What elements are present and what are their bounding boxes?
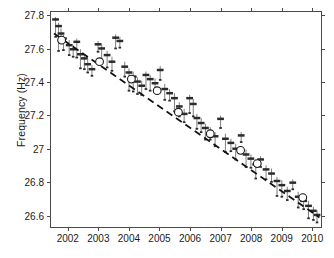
x-axis-tick-label: 2005 [148,233,170,244]
trend-line [54,34,319,218]
data-point-marker [190,103,197,105]
annual-mean-marker [206,130,214,138]
data-point-marker [238,134,245,136]
data-point-marker [248,157,255,159]
y-axis-tick-right [321,149,325,150]
error-bar-cap-lower [196,128,199,130]
data-point-marker [278,184,285,186]
data-point-marker [55,25,62,27]
error-bar-cap-lower [230,150,233,152]
error-bar-cap-lower [86,72,89,74]
error-bar-cap-lower [281,196,284,198]
error-bar-cap-lower [62,49,65,51]
x-axis-tick-top [68,8,69,12]
data-point-marker [217,118,224,120]
data-point-marker [98,47,105,49]
error-bar-cap-lower [136,93,139,95]
data-point-marker [228,142,235,144]
error-bar-cap-lower [168,100,171,102]
error-bar-cap-lower [97,51,100,53]
x-axis-tick-label: 2002 [57,233,79,244]
data-point-marker [84,63,91,65]
x-axis-tick-label: 2010 [301,233,323,244]
figure-container: Frequency (Hz) 26.626.82727.227.427.627.… [0,0,334,258]
data-point-marker [243,153,250,155]
y-axis-tick-label: 27 [33,143,44,154]
x-axis-tick [129,227,130,231]
y-axis-tick [47,182,51,183]
data-point-marker [274,180,281,182]
error-bar-cap-lower [159,79,162,81]
error-bar-cap-lower [307,217,310,219]
x-axis-tick-top [190,8,191,12]
data-point-marker [289,181,296,183]
y-axis-tick-label: 26.8 [25,177,44,188]
annual-mean-marker [153,87,161,95]
x-axis-tick-top [221,8,222,12]
annual-mean-marker [253,160,261,168]
plot-area: 26.626.82727.227.427.627.820022003200420… [50,11,322,228]
y-axis-tick-label: 27.2 [25,110,44,121]
y-axis-tick-right [321,115,325,116]
x-axis-tick-label: 2003 [87,233,109,244]
data-point-marker [305,205,312,207]
y-axis-tick [47,216,51,217]
error-bar-cap-lower [188,112,191,114]
error-bar-cap-lower [106,67,109,69]
error-bar-cap-lower [119,47,122,49]
data-point-marker [95,43,102,45]
y-axis-tick-right [321,182,325,183]
error-bar-cap-lower [312,219,315,221]
x-axis-tick-top [282,8,283,12]
error-bar-cap-lower [123,76,126,78]
y-axis-tick-right [321,49,325,50]
x-axis-tick-label: 2007 [209,233,231,244]
error-bar-cap-lower [250,167,253,169]
error-bar-cap-lower [145,88,148,90]
data-point-marker [202,127,209,129]
data-point-marker [116,40,123,42]
y-axis-tick [47,49,51,50]
data-point-marker [73,41,80,43]
data-point-marker [104,54,111,56]
error-bar-cap-lower [297,207,300,209]
data-point-marker [268,172,275,174]
data-point-marker [152,82,159,84]
annual-mean-marker [237,146,245,154]
error-bar-cap-lower [291,188,294,190]
annual-mean-marker [299,194,307,202]
data-point-marker [186,97,193,99]
error-bar-cap-lower [254,178,257,180]
data-point-marker [112,36,119,38]
data-point-marker [121,65,128,67]
error-bar-cap-lower [240,141,243,143]
x-axis-tick [221,227,222,231]
data-point-marker [171,97,178,99]
error-bar-cap-lower [114,48,117,50]
x-axis-tick-top [98,8,99,12]
error-bar-cap-lower [83,68,86,70]
data-point-marker [143,74,150,76]
x-axis-tick-top [312,8,313,12]
data-point-marker [166,92,173,94]
x-axis-tick-top [251,8,252,12]
annual-mean-marker [58,36,66,44]
x-axis-tick [312,227,313,231]
error-bar-cap-lower [200,131,203,133]
data-point-marker [157,69,164,71]
data-point-marker [147,78,154,80]
error-bar-cap-lower [163,99,166,101]
error-bar-cap-lower [276,195,279,197]
error-bar-cap-lower [79,67,82,69]
data-point-marker [176,105,183,107]
error-bar-cap-lower [302,208,305,210]
data-point-marker [263,168,270,170]
data-point-marker [126,71,133,73]
y-axis-tick [47,115,51,116]
error-bar-cap-lower [149,90,152,92]
data-point-marker [161,88,168,90]
error-bar-cap-lower [132,91,135,93]
error-bar-cap-lower [270,181,273,183]
x-axis-tick [251,227,252,231]
x-axis-tick [282,227,283,231]
